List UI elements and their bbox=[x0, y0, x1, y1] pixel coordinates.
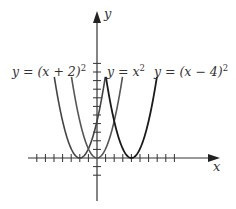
x-axis bbox=[28, 154, 220, 162]
equation-label-1: y = (x + 2)2 bbox=[11, 63, 86, 79]
equation-label-3: y = (x − 4)2 bbox=[153, 63, 228, 79]
equation-label-2-text: y = x bbox=[106, 64, 140, 79]
y-axis-arrow-icon bbox=[93, 11, 101, 23]
equation-label-2: y = x2 bbox=[106, 63, 145, 79]
equation-label-1-exponent: 2 bbox=[81, 63, 86, 73]
equation-label-2-exponent: 2 bbox=[140, 63, 145, 73]
equation-label-3-exponent: 2 bbox=[223, 63, 228, 73]
parabola-graph: y x y = (x + 2)2 y = x2 y = (x − 4)2 bbox=[0, 0, 236, 209]
equation-label-1-text: y = (x + 2) bbox=[11, 64, 81, 79]
curve-x-minus-4-squared bbox=[106, 77, 157, 158]
x-axis-label: x bbox=[213, 159, 221, 174]
equation-label-3-text: y = (x − 4) bbox=[153, 64, 223, 79]
y-axis-label: y bbox=[103, 6, 112, 21]
